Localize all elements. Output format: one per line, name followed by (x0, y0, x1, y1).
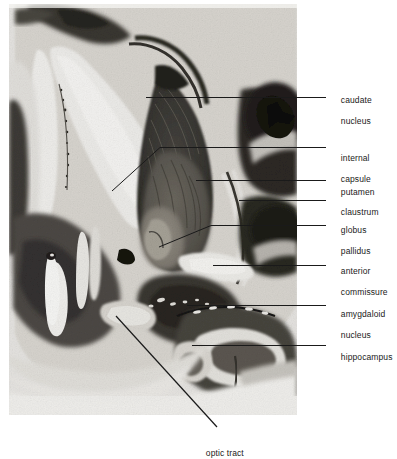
label-optic-tract: optic tract (196, 437, 244, 459)
label-caudate-nucleus-line-1: caudate (341, 95, 372, 105)
label-amygdaloid-nucleus-line-1: amygdaloid (341, 309, 385, 319)
label-globus-pallidus-line-1: globus (341, 225, 367, 235)
label-anterior-commissure-line-1: anterior (341, 266, 371, 276)
label-hippocampus: hippocampus (331, 341, 393, 373)
label-putamen-line-1: putamen (341, 187, 375, 197)
label-internal-capsule-line-1: internal (341, 153, 370, 163)
brain-section-svg (9, 4, 297, 415)
brain-section-photograph (9, 4, 297, 415)
label-anterior-commissure-line-2: commissure (341, 287, 388, 297)
label-hippocampus-line-1: hippocampus (341, 352, 393, 362)
label-optic-tract-line-1: optic tract (206, 448, 244, 458)
label-caudate-nucleus-line-2: nucleus (341, 116, 371, 126)
anatomy-figure: caudate nucleus internal capsule putamen… (0, 0, 397, 459)
label-caudate-nucleus: caudate nucleus (331, 84, 372, 137)
label-amygdaloid-nucleus-line-2: nucleus (341, 330, 371, 340)
label-globus-pallidus-line-2: pallidus (341, 246, 371, 256)
